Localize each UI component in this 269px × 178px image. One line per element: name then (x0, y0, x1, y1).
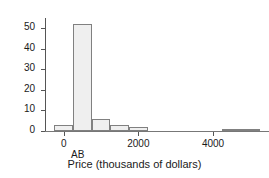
y-tick: 10 (41, 110, 45, 111)
x-tick-mark (213, 132, 214, 136)
y-tick-mark (41, 110, 45, 111)
y-tick: 50 (41, 28, 45, 29)
y-tick-label: 0 (29, 124, 35, 135)
x-tick-mark (138, 132, 139, 136)
y-tick-mark (41, 49, 45, 50)
y-tick-mark (41, 69, 45, 70)
y-tick: 20 (41, 90, 45, 91)
y-tick: 0 (41, 131, 45, 132)
histogram-bar (110, 125, 129, 131)
histogram-bar (222, 129, 241, 131)
histogram-chart: Frequency 01020304050 020004000 AB Price… (0, 0, 269, 178)
x-tick-label: 4000 (202, 138, 224, 149)
y-tick-label: 50 (24, 21, 35, 32)
y-tick-mark (41, 28, 45, 29)
y-tick-label: 20 (24, 83, 35, 94)
y-tick-label: 30 (24, 62, 35, 73)
x-axis-title: Price (thousands of dollars) (0, 158, 269, 170)
y-tick-mark (41, 90, 45, 91)
x-tick-label: 0 (61, 138, 67, 149)
y-axis-line (45, 18, 46, 132)
x-tick-label: 2000 (127, 138, 149, 149)
histogram-bar (241, 129, 260, 131)
histogram-bar (54, 125, 73, 131)
histogram-bar (129, 127, 148, 131)
histogram-bar (73, 24, 92, 131)
y-tick-mark (41, 131, 45, 132)
x-axis-line (44, 131, 269, 132)
histogram-bar (92, 119, 111, 131)
y-tick-label: 10 (24, 103, 35, 114)
y-tick-label: 40 (24, 42, 35, 53)
plot-area: 01020304050 020004000 AB (45, 10, 269, 132)
x-tick-mark (64, 132, 65, 136)
y-tick: 40 (41, 49, 45, 50)
y-tick: 30 (41, 69, 45, 70)
